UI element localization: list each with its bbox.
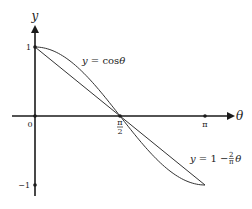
- y-axis-label: y: [31, 9, 39, 23]
- cos-label-var: θ: [119, 55, 125, 66]
- y-tick-label-1: 1: [26, 43, 31, 52]
- linear-label-text: y = 1 −: [189, 153, 228, 164]
- linear-curve-label: y = 1 − 2 π θ: [189, 151, 241, 166]
- cos-label-eq: = cos: [88, 55, 120, 66]
- linear-label-var: θ: [235, 153, 241, 164]
- cos-curve-label: y = cosθ: [81, 55, 125, 66]
- x-tick-label-0: 0: [27, 120, 32, 129]
- diagram: y θ 1 −1 0 π 2 π y = cosθ y = 1 − 2 π θ: [0, 0, 252, 209]
- x-axis-label: θ: [236, 109, 244, 123]
- x-tick-dot-2: [203, 114, 207, 118]
- y-tick-dot-1: [33, 183, 37, 187]
- x-tick-dot-0: [33, 114, 37, 118]
- linear-label-eq: = 1 −: [196, 153, 229, 164]
- y-tick-label-minus-1: −1: [18, 181, 30, 190]
- x-tick-label-pi-over-2: π 2: [117, 118, 123, 136]
- x-tick-label-pi-over-2-numerator: π: [117, 118, 122, 127]
- linear-label-denominator: π: [229, 158, 234, 166]
- x-tick-label-pi-over-2-denominator: 2: [117, 127, 122, 136]
- y-tick-dot-0: [33, 45, 37, 49]
- x-tick-label-pi: π: [202, 120, 207, 129]
